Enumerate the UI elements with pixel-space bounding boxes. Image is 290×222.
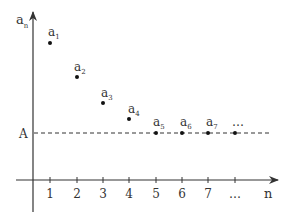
point-label-a5: a5 bbox=[153, 115, 165, 131]
tick-label: 7 bbox=[204, 187, 212, 201]
point-a1 bbox=[48, 41, 52, 45]
point-a3 bbox=[101, 101, 105, 105]
point-label-a2: a2 bbox=[74, 60, 86, 76]
x-axis-label: n bbox=[264, 186, 273, 201]
point-a5 bbox=[154, 131, 158, 135]
point-a4 bbox=[127, 117, 131, 121]
tick-label: 2 bbox=[73, 187, 81, 201]
point-label-a7: a7 bbox=[206, 115, 218, 131]
point-a6 bbox=[180, 131, 184, 135]
tick-label: 6 bbox=[178, 187, 186, 201]
point-label-a1: a1 bbox=[48, 25, 60, 41]
limit-label: A bbox=[18, 127, 28, 141]
point-label-ellipsis: … bbox=[232, 115, 244, 129]
tick-label: 3 bbox=[99, 187, 107, 201]
sequence-limit-diagram: an n A 1 2 3 4 5 6 7 … a1 bbox=[0, 0, 290, 222]
x-tick-labels: 1 2 3 4 5 6 7 … bbox=[46, 187, 241, 201]
point-label-a3: a3 bbox=[101, 86, 113, 102]
tick-label: 4 bbox=[125, 187, 133, 201]
y-axis-label: an bbox=[16, 12, 29, 30]
point-ellipsis bbox=[233, 131, 237, 135]
tick-label: 5 bbox=[152, 187, 160, 201]
tick-label: … bbox=[229, 187, 241, 201]
point-a2 bbox=[75, 75, 79, 79]
point-label-a4: a4 bbox=[128, 102, 140, 118]
point-label-a6: a6 bbox=[180, 115, 192, 131]
tick-label: 1 bbox=[46, 187, 54, 201]
point-a7 bbox=[206, 131, 210, 135]
